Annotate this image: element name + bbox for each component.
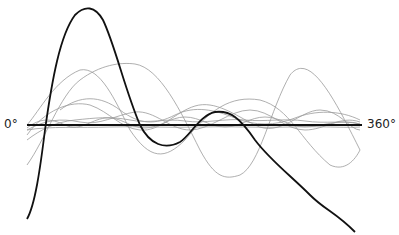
waveform-diagram (0, 0, 399, 235)
component-wave-1 (27, 63, 360, 177)
axis-start-label: 0° (4, 117, 18, 131)
axis-end-label: 360° (367, 117, 396, 131)
